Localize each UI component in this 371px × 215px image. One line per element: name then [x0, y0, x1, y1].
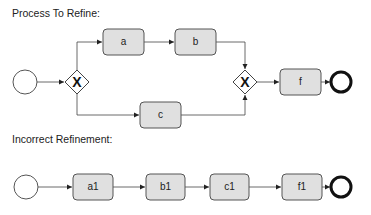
task-f1[interactable]: f1: [282, 174, 322, 200]
task-c1[interactable]: c1: [210, 174, 249, 200]
end-event-circle[interactable]: [331, 72, 351, 92]
start-event-circle[interactable]: [13, 70, 37, 94]
svg-text:c1: c1: [224, 181, 235, 192]
svg-text:a: a: [121, 36, 127, 47]
task-b[interactable]: b: [175, 29, 216, 55]
exclusive-gateway-split[interactable]: X: [65, 70, 89, 94]
svg-text:f1: f1: [298, 181, 307, 192]
start-event-circle-2[interactable]: [14, 175, 38, 199]
x-gateway-icon: X: [240, 74, 250, 90]
task-a[interactable]: a: [103, 29, 144, 55]
svg-text:c: c: [158, 109, 163, 120]
svg-text:f: f: [299, 76, 302, 87]
bpmn-canvas: X a b c X f a1 b1 c1: [0, 0, 371, 215]
x-gateway-icon: X: [72, 74, 82, 90]
svg-text:a1: a1: [87, 181, 99, 192]
svg-text:b: b: [193, 36, 199, 47]
task-a1[interactable]: a1: [73, 174, 113, 200]
task-b1[interactable]: b1: [146, 174, 185, 200]
exclusive-gateway-join[interactable]: X: [233, 70, 257, 94]
end-event-circle-2[interactable]: [331, 177, 351, 197]
task-c[interactable]: c: [140, 102, 181, 128]
task-f[interactable]: f: [280, 69, 321, 95]
svg-text:b1: b1: [160, 181, 172, 192]
